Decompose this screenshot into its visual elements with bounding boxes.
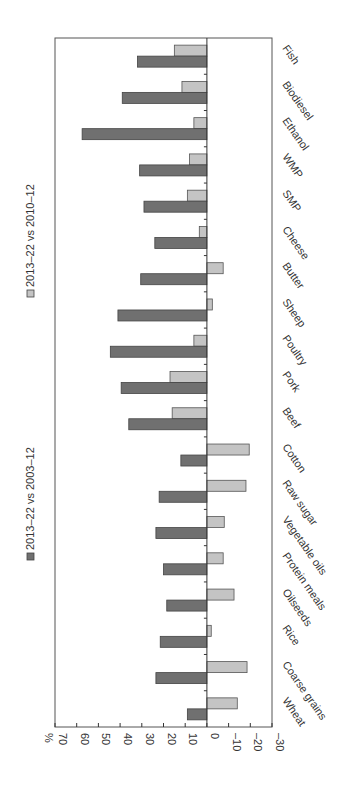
category-label: Wheat xyxy=(280,695,308,728)
category-label: Vegetable oils xyxy=(280,514,329,577)
bar-cheese-2003-12 xyxy=(155,237,207,248)
legend-item-2003-12-label: 2013–22 vs 2003–12 xyxy=(24,447,36,550)
bar-vegetable-oils-2010-12 xyxy=(207,517,224,528)
legend-item-2003-12: 2013–22 vs 2003–12 xyxy=(24,447,36,560)
bar-ethanol-2003-12 xyxy=(82,129,207,140)
value-tick-label: 10 xyxy=(187,733,199,745)
bar-coarse-grains-2003-12 xyxy=(156,673,207,684)
category-label: Butter xyxy=(280,260,307,291)
value-tick-label: 70 xyxy=(57,733,69,745)
bar-pork-2010-12 xyxy=(170,372,207,383)
value-tick-label: –10 xyxy=(231,733,243,751)
bar-rice-2010-12 xyxy=(207,625,211,636)
bar-sheep-2003-12 xyxy=(118,310,207,321)
bar-pork-2003-12 xyxy=(121,383,207,394)
bar-rice-2003-12 xyxy=(160,636,207,647)
bar-butter-2003-12 xyxy=(141,274,207,285)
bar-fish-2010-12 xyxy=(174,45,207,56)
bar-protein-meals-2003-12 xyxy=(164,564,207,575)
legend: 2013–22 vs 2003–122013–22 vs 2010–12 xyxy=(24,184,36,560)
bar-raw-sugar-2010-12 xyxy=(207,480,246,491)
category-label: Pork xyxy=(280,369,303,395)
bar-protein-meals-2010-12 xyxy=(207,553,223,564)
bar-ethanol-2010-12 xyxy=(194,118,207,129)
bar-poultry-2003-12 xyxy=(110,346,207,357)
bar-coarse-grains-2010-12 xyxy=(207,662,247,673)
category-label: WMP xyxy=(280,151,305,180)
legend-item-2010-12-swatch xyxy=(27,290,34,297)
bar-cheese-2010-12 xyxy=(199,226,207,237)
value-tick-label: 60 xyxy=(79,733,91,745)
value-tick-label: 40 xyxy=(122,733,134,745)
category-label: Biodiesel xyxy=(280,79,315,122)
bar-vegetable-oils-2003-12 xyxy=(156,528,207,539)
bar-beef-2003-12 xyxy=(129,419,207,430)
category-label: Poultry xyxy=(280,333,310,368)
bar-wheat-2003-12 xyxy=(187,709,207,720)
value-tick-label: 50 xyxy=(100,733,112,745)
bar-wheat-2010-12 xyxy=(207,698,237,709)
bar-oilseeds-2010-12 xyxy=(207,589,234,600)
value-tick-label: –30 xyxy=(274,733,286,751)
bar-beef-2010-12 xyxy=(172,408,207,419)
value-tick-label: –20 xyxy=(252,733,264,751)
bars-group xyxy=(82,45,249,720)
category-labels: WheatCoarse grainsRiceOilseedsProtein me… xyxy=(280,42,329,728)
bar-wmp-2010-12 xyxy=(190,154,207,165)
legend-item-2010-12-label: 2013–22 vs 2010–12 xyxy=(24,184,36,287)
bar-fish-2003-12 xyxy=(137,56,206,67)
bar-chart: 706050403020100–10–20–30% WheatCoarse gr… xyxy=(0,0,341,785)
category-label: Rice xyxy=(280,623,302,648)
category-label: Sheep xyxy=(280,296,308,329)
category-label: SMP xyxy=(280,187,304,213)
bar-poultry-2010-12 xyxy=(194,335,207,346)
category-label: Coarse grains xyxy=(280,659,329,722)
category-label: Fish xyxy=(280,42,302,66)
bar-smp-2010-12 xyxy=(187,190,207,201)
bar-cotton-2003-12 xyxy=(181,455,207,466)
bar-cotton-2010-12 xyxy=(207,444,249,455)
category-label: Cheese xyxy=(280,224,312,262)
bar-raw-sugar-2003-12 xyxy=(159,491,207,502)
bar-biodiesel-2010-12 xyxy=(182,81,207,92)
bar-wmp-2003-12 xyxy=(140,165,207,176)
bar-sheep-2010-12 xyxy=(207,299,212,310)
value-tick-label: 20 xyxy=(166,733,178,745)
category-label: Cotton xyxy=(280,441,308,474)
unit-label: % xyxy=(43,733,55,743)
legend-item-2010-12: 2013–22 vs 2010–12 xyxy=(24,184,36,297)
bar-butter-2010-12 xyxy=(207,263,223,274)
bar-smp-2003-12 xyxy=(144,201,207,212)
legend-item-2003-12-swatch xyxy=(27,553,34,560)
value-tick-label: 30 xyxy=(144,733,156,745)
bar-oilseeds-2003-12 xyxy=(167,600,207,611)
value-tick-label: 0 xyxy=(209,733,221,739)
bar-biodiesel-2003-12 xyxy=(122,92,207,103)
category-label: Beef xyxy=(280,405,303,431)
chart-canvas: 706050403020100–10–20–30% WheatCoarse gr… xyxy=(0,0,341,785)
